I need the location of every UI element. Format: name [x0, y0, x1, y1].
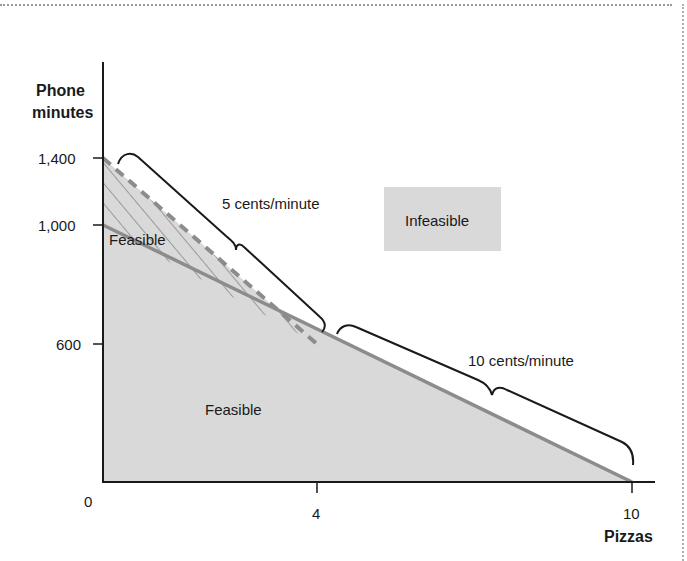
y-tick-label-1000: 1,000: [38, 217, 76, 234]
x-tick-label-10: 10: [623, 505, 640, 522]
y-tick-label-1400: 1,400: [38, 150, 76, 167]
y-axis-title-line2: minutes: [32, 104, 93, 121]
x-axis-title: Pizzas: [604, 528, 653, 545]
annotation-5-cents: 5 cents/minute: [222, 195, 320, 212]
x-tick-label-4: 4: [312, 505, 320, 522]
budget-chart: Phone minutes Pizzas 1,400 1,000 600 0 4…: [0, 0, 687, 561]
annotation-10-cents: 10 cents/minute: [468, 352, 574, 369]
y-axis-title-line1: Phone: [36, 82, 85, 99]
y-tick-label-600: 600: [56, 336, 81, 353]
feasible-label-upper: Feasible: [109, 231, 166, 248]
infeasible-label: Infeasible: [405, 212, 469, 229]
x-tick-label-0: 0: [84, 493, 92, 510]
feasible-label-lower: Feasible: [205, 401, 262, 418]
